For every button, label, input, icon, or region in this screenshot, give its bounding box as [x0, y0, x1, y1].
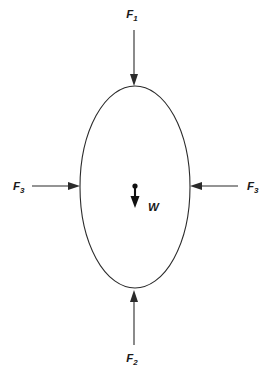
force-bottom-arrow — [130, 290, 138, 345]
force-top-arrowhead — [130, 74, 138, 86]
force-right-arrow — [190, 182, 238, 190]
label-weight: W — [148, 201, 160, 213]
label-weight-symbol: W — [148, 201, 160, 213]
force-top-arrow — [130, 30, 138, 86]
force-right-arrowhead — [190, 182, 202, 190]
label-force-left: F3 — [13, 180, 25, 195]
force-diagram: F1 F2 F3 F3 W — [0, 0, 270, 374]
force-left-arrow — [32, 182, 80, 190]
label-force-right-subscript: 3 — [254, 186, 259, 195]
label-force-left-subscript: 3 — [20, 186, 25, 195]
label-force-bottom-subscript: 2 — [132, 358, 138, 367]
label-force-top: F1 — [126, 8, 138, 23]
label-force-top-subscript: 1 — [133, 14, 138, 23]
weight-arrowhead — [131, 196, 140, 208]
label-force-right: F3 — [247, 180, 259, 195]
weight-arrow — [131, 183, 140, 208]
label-force-bottom: F2 — [126, 352, 138, 367]
force-left-arrowhead — [68, 182, 80, 190]
force-bottom-arrowhead — [130, 290, 138, 302]
figure-root: F1 F2 F3 F3 W — [0, 0, 270, 374]
